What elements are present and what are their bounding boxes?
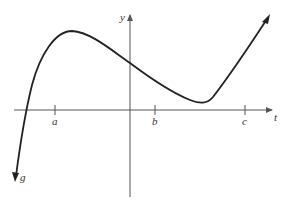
curve-arrow-upper-right-icon (262, 14, 270, 24)
curve-arrow-lower-left-icon (12, 172, 19, 182)
t-axis-label: t (274, 112, 277, 123)
tick-label-b: b (152, 116, 158, 127)
curve-label-g: g (20, 172, 26, 183)
graph-figure: y t a b c g (0, 0, 286, 202)
curve-g (16, 19, 267, 176)
graph-canvas (0, 0, 286, 202)
tick-label-a: a (52, 116, 58, 127)
tick-label-c: c (242, 116, 247, 127)
y-axis-label: y (120, 12, 125, 23)
